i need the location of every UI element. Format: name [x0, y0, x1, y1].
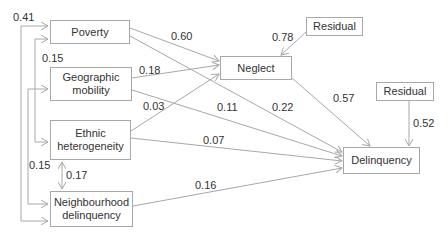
node-poverty: Poverty	[50, 20, 130, 44]
node-neglect: Neglect	[220, 56, 292, 80]
path-neglect-delinquency	[292, 78, 370, 146]
node-ethnic-heterogeneity: Ethnic heterogeneity	[50, 120, 131, 160]
corr-geo-neigh-label: 0.15	[29, 159, 50, 171]
corr-ethnic-neigh-label: 0.17	[66, 169, 87, 181]
coef-neglect-delinquency: 0.57	[333, 92, 354, 104]
coef-neigh-delinquency: 0.16	[195, 179, 216, 191]
coef-poverty-delinquency: 0.22	[272, 101, 293, 113]
coef-ethnic-delinquency: 0.07	[203, 134, 224, 146]
node-label: Neighbourhood	[54, 196, 129, 209]
node-label: Residual	[384, 85, 427, 98]
node-label: Ethnic	[75, 127, 106, 140]
node-label: Delinquency	[351, 154, 412, 167]
path-ethnic-delinquency	[131, 138, 342, 161]
node-geographic-mobility: Geographic mobility	[50, 67, 132, 101]
coef-geo-delinquency: 0.11	[217, 101, 238, 113]
node-label: Poverty	[71, 26, 108, 39]
coef-residual-delinquency: 0.52	[413, 117, 434, 129]
node-residual-delinquency: Residual	[376, 82, 434, 101]
node-neighbourhood-delinquency: Neighbourhood delinquency	[50, 191, 133, 227]
coef-geo-neglect: 0.18	[139, 64, 160, 76]
node-residual-neglect: Residual	[306, 17, 363, 36]
corr-poverty-neigh-label: 0.41	[13, 11, 34, 23]
node-delinquency: Delinquency	[343, 147, 420, 174]
node-label: Residual	[313, 20, 356, 33]
node-label: delinquency	[62, 209, 121, 222]
corr-poverty-ethnic-label: 0.15	[42, 52, 63, 64]
node-label: heterogeneity	[57, 140, 124, 153]
node-label: Neglect	[237, 62, 274, 75]
coef-ethnic-neglect: 0.03	[143, 100, 164, 112]
coef-residual-neglect: 0.78	[272, 31, 293, 43]
coef-poverty-neglect: 0.60	[171, 30, 192, 42]
node-label: mobility	[72, 84, 109, 97]
node-label: Geographic	[63, 71, 120, 84]
corr-geo-neigh	[28, 89, 48, 204]
path-neigh-delinquency	[133, 168, 342, 206]
